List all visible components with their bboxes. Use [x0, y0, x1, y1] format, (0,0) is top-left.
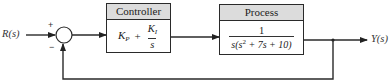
summing-junction	[56, 27, 72, 43]
block-diagram: R(s) + − Controller KP + KI s Process 1 …	[0, 0, 389, 84]
plant-fraction: 1 s(s2 + 7s + 10)	[229, 25, 293, 50]
process-transfer-function: 1 s(s2 + 7s + 10)	[220, 21, 303, 54]
controller-block: Controller KP + KI s	[106, 3, 171, 53]
signal-lines	[0, 0, 389, 84]
process-block: Process 1 s(s2 + 7s + 10)	[219, 4, 304, 55]
plus-operator: +	[135, 30, 141, 42]
process-title: Process	[220, 5, 303, 21]
plus-sign: +	[48, 21, 53, 30]
controller-transfer-function: KP + KI s	[107, 20, 170, 52]
controller-title: Controller	[107, 4, 170, 20]
output-label: Y(s)	[371, 33, 388, 44]
ki-over-s-fraction: KI s	[146, 23, 159, 50]
input-label: R(s)	[2, 28, 20, 39]
kp-term: KP	[118, 29, 130, 43]
minus-sign: −	[49, 43, 54, 52]
